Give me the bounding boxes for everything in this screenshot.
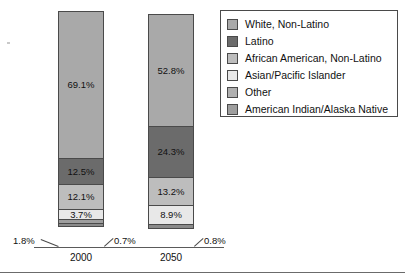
segment-value: 69.1% <box>68 80 95 90</box>
legend-label: American Indian/Alaska Native <box>245 104 388 115</box>
segment-2000-african-american[interactable]: 12.1% <box>58 184 104 210</box>
legend-item-white-non-latino[interactable]: White, Non-Latino <box>227 16 390 33</box>
segment-2000-latino[interactable]: 12.5% <box>58 158 104 185</box>
segment-2050-other[interactable] <box>148 224 194 229</box>
segment-value: 13.2% <box>158 187 185 197</box>
segment-value: 52.8% <box>158 66 185 76</box>
legend-swatch-icon <box>227 104 238 115</box>
segment-2050-white[interactable]: 52.8% <box>148 14 194 127</box>
legend-swatch-icon <box>227 36 238 47</box>
legend-item-asian-pacific-islander[interactable]: Asian/Pacific Islander <box>227 67 390 84</box>
chart-canvas: 69.1% 12.5% 12.1% 3.7% 52.8% 24.3% 13.2% <box>0 0 405 279</box>
segment-value: 12.1% <box>68 192 95 202</box>
legend-swatch-icon <box>227 70 238 81</box>
callout-leader-line <box>194 238 204 247</box>
legend-item-american-indian-alaska-native[interactable]: American Indian/Alaska Native <box>227 101 390 118</box>
segment-2050-latino[interactable]: 24.3% <box>148 126 194 178</box>
scan-speck <box>7 42 10 44</box>
segment-value: 3.7% <box>70 210 92 220</box>
segment-value: 8.9% <box>160 210 182 220</box>
legend-swatch-icon <box>227 53 238 64</box>
legend-label: White, Non-Latino <box>245 19 329 30</box>
callout-0-8-percent: 0.8% <box>204 235 226 246</box>
segment-2000-other[interactable] <box>58 223 104 227</box>
legend-label: Asian/Pacific Islander <box>245 70 345 81</box>
legend-label: Latino <box>245 36 274 47</box>
callout-0-7-percent: 0.7% <box>114 235 136 246</box>
legend-label: African American, Non-Latino <box>245 53 382 64</box>
x-tick-2000: 2000 <box>56 252 106 263</box>
x-tick-2050: 2050 <box>146 252 196 263</box>
callout-1-8-percent: 1.8% <box>13 235 35 246</box>
bar-2050[interactable]: 52.8% 24.3% 13.2% 8.9% <box>148 14 194 229</box>
segment-2000-white[interactable]: 69.1% <box>58 11 104 159</box>
legend-label: Other <box>245 87 271 98</box>
x-axis-line <box>34 247 224 248</box>
page-divider-rule <box>0 272 405 273</box>
segment-2050-african-american[interactable]: 13.2% <box>148 177 194 206</box>
legend-swatch-icon <box>227 87 238 98</box>
callout-leader-line <box>104 238 114 247</box>
callout-leader-line <box>41 239 59 247</box>
segment-2050-asian-pacific-islander[interactable]: 8.9% <box>148 205 194 225</box>
segment-value: 12.5% <box>68 167 95 177</box>
legend-swatch-icon <box>227 19 238 30</box>
legend-item-african-american-non-latino[interactable]: African American, Non-Latino <box>227 50 390 67</box>
chart-legend: White, Non-Latino Latino African America… <box>220 10 398 117</box>
legend-item-other[interactable]: Other <box>227 84 390 101</box>
legend-item-latino[interactable]: Latino <box>227 33 390 50</box>
bar-2000[interactable]: 69.1% 12.5% 12.1% 3.7% <box>58 11 104 227</box>
segment-value: 24.3% <box>158 147 185 157</box>
